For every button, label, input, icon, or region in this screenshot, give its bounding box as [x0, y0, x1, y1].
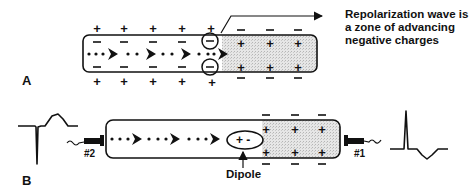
svg-text:+: + — [237, 60, 245, 75]
wavefront-circles — [202, 33, 218, 75]
caption-line-3: negative charges — [345, 34, 474, 47]
electrode-1-label: #1 — [354, 148, 365, 159]
svg-text:+: + — [291, 145, 299, 160]
panel-b-label: B — [22, 173, 31, 188]
svg-text:+: + — [93, 74, 101, 89]
dipole-charges: + - — [236, 133, 250, 147]
caption-text: Repolarization wave is a zone of advanci… — [345, 8, 474, 47]
propagation-arrows-a — [87, 48, 228, 60]
panel-b: +++ +++ — [18, 111, 448, 168]
electrode-2-label: #2 — [84, 148, 95, 159]
panel-a: +++++ +++++ +++ +++ — [83, 16, 322, 90]
electrode-2 — [67, 135, 104, 146]
svg-text:+: + — [266, 60, 274, 75]
svg-text:+: + — [178, 21, 186, 36]
svg-text:+: + — [262, 145, 270, 160]
svg-text:+: + — [178, 74, 186, 89]
svg-text:+: + — [93, 21, 101, 36]
electrode-1 — [344, 135, 381, 146]
svg-text:+: + — [318, 145, 326, 160]
caption-line-2: a zone of advancing — [345, 21, 474, 34]
svg-text:+: + — [237, 36, 245, 51]
svg-text:+: + — [294, 36, 302, 51]
svg-text:+: + — [208, 75, 216, 90]
propagation-arrows-b — [110, 133, 220, 145]
svg-text:+: + — [262, 122, 270, 137]
svg-text:+: + — [266, 36, 274, 51]
svg-text:+: + — [291, 122, 299, 137]
svg-text:+: + — [120, 74, 128, 89]
dipole-label: Dipole — [226, 168, 261, 180]
svg-text:+: + — [149, 21, 157, 36]
ecg-left-trace — [18, 114, 78, 164]
panel-a-label: A — [22, 73, 31, 88]
negative-zone-shading-b — [262, 120, 342, 158]
svg-text:+: + — [318, 122, 326, 137]
ecg-right-trace — [390, 111, 448, 159]
svg-text:+: + — [294, 60, 302, 75]
caption-line-1: Repolarization wave is — [345, 8, 474, 21]
svg-text:+: + — [149, 74, 157, 89]
svg-text:+: + — [120, 21, 128, 36]
